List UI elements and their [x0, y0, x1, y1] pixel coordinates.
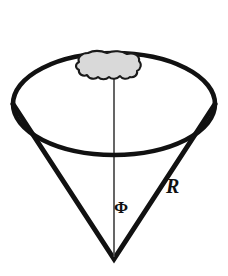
cone-diagram-svg — [0, 0, 228, 276]
cone-diagram-figure: R Φ — [0, 0, 228, 276]
surface-patch-blob — [76, 51, 141, 79]
label-angle-phi: Φ — [114, 199, 128, 216]
label-radius-R: R — [166, 176, 179, 196]
